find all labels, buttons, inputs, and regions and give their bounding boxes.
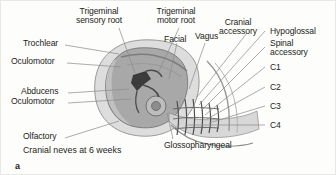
label-trigeminal-motor-root: Trigeminal motor root [143, 7, 209, 26]
panel-letter: a [15, 161, 20, 171]
label-c1: C1 [270, 63, 281, 72]
label-c4: C4 [270, 121, 281, 130]
label-olfactory: Olfactory [23, 132, 56, 141]
leader-hypoglossal [199, 31, 265, 105]
label-oculomotor-lower: Oculomotor [11, 97, 54, 106]
label-hypoglossal: Hypoglossal [270, 27, 316, 36]
label-line-2: motor root [157, 15, 195, 25]
label-vagus: Vagus [195, 32, 218, 41]
label-spinal-accessory: Spinal accessory [270, 39, 308, 58]
label-line-2: sensory root [76, 15, 122, 25]
leader-spinal-accessory [201, 47, 265, 111]
label-trigeminal-sensory-root: Trigeminal sensory root [63, 7, 135, 26]
leader-olfactory [65, 121, 119, 138]
label-glossopharyngeal: Glossopharyngeal [164, 141, 232, 150]
label-oculomotor-upper: Oculomotor [11, 57, 54, 66]
figure-panel: Trochlear Oculomotor Abducens Oculomotor… [0, 0, 336, 175]
label-trochlear: Trochlear [23, 39, 58, 48]
label-cranial-accessory: Cranial accessory [210, 18, 266, 37]
leader-trochlear [65, 45, 119, 54]
label-line-2: accessory [270, 47, 308, 57]
figure-caption: Cranial neves at 6 weeks [23, 145, 121, 155]
otic-vesicle-core [152, 102, 161, 111]
label-line-2: accessory [219, 26, 257, 36]
label-c2: C2 [270, 83, 281, 92]
label-abducens: Abducens [21, 87, 58, 96]
label-facial: Facial [164, 35, 186, 44]
label-c3: C3 [270, 102, 281, 111]
leader-c1 [205, 67, 265, 115]
